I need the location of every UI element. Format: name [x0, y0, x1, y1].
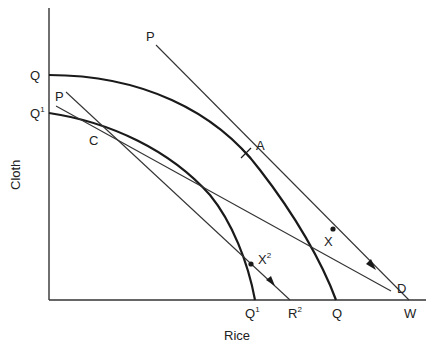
outer-ppf-curve	[49, 75, 336, 300]
point-a-cross-icon	[241, 148, 251, 158]
y-intercept-q1-label: Q1	[30, 105, 45, 121]
x-intercept-r2-label: R2	[288, 305, 302, 321]
x-intercept-q-label: Q	[332, 306, 342, 321]
x-axis-label: Rice	[224, 328, 250, 343]
label-point-c: C	[89, 133, 98, 148]
x-intercept-w-label: W	[404, 306, 417, 321]
label-point-a: A	[256, 138, 265, 153]
label-p-upper: P	[146, 29, 155, 44]
line-c-to-d	[56, 106, 391, 291]
point-x2-dot-icon	[248, 261, 253, 266]
arrow-icon	[266, 276, 275, 286]
label-point-x2: X2	[258, 251, 272, 267]
inner-ppf-curve	[49, 113, 255, 300]
x-intercept-q1-label: Q1	[245, 305, 260, 321]
trade-diagram: Q Q1 Cloth P P D A C X X2 Q1 R2 Q W Rice	[0, 0, 433, 348]
label-d: D	[397, 281, 406, 296]
y-axis-label: Cloth	[8, 160, 23, 190]
label-point-x: X	[324, 234, 333, 249]
label-p-lower: P	[55, 89, 64, 104]
point-x-dot-icon	[330, 226, 335, 231]
price-line-lower	[66, 92, 290, 300]
y-intercept-q-label: Q	[30, 68, 40, 83]
